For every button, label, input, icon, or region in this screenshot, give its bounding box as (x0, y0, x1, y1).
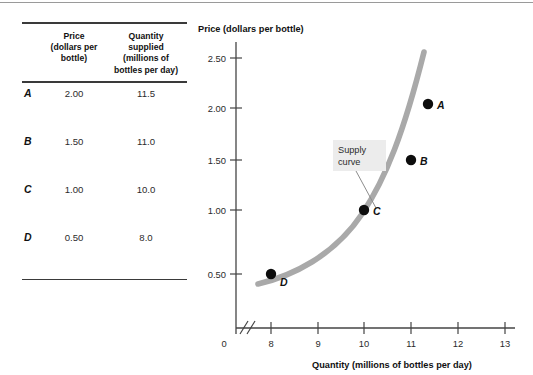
y-tick-label-050: 0.50 (208, 269, 226, 280)
data-point-b (406, 155, 416, 165)
data-point-c (359, 205, 369, 215)
quantity-header-line1: Quantity (105, 31, 187, 42)
y-tick-label-100: 1.00 (208, 205, 226, 216)
row-quantity-b: 11.0 (105, 136, 187, 147)
row-quantity-d: 8.0 (105, 232, 187, 243)
table-header-row: Price (dollars per bottle) Quantity supp… (22, 24, 187, 82)
page-top-rule (0, 2, 533, 3)
quantity-header-line3: (millions of (105, 53, 187, 64)
x-axis-title: Quantity (millions of bottles per day) (312, 360, 472, 370)
data-point-label-b: B (420, 155, 428, 167)
row-label-b: B (22, 135, 43, 147)
x-tick-label-12: 12 (453, 338, 463, 349)
row-label-d: D (22, 231, 43, 243)
price-header-line3: bottle) (43, 53, 105, 64)
data-point-label-a: A (436, 99, 445, 111)
data-point-d (266, 269, 276, 279)
price-header-line1: Price (43, 31, 105, 42)
row-price-c: 1.00 (43, 184, 105, 195)
y-axis-title: Price (dollars per bottle) (198, 24, 304, 34)
supply-schedule-table: Price (dollars per bottle) Quantity supp… (22, 22, 187, 280)
supply-curve-callout-line1: Supply (338, 145, 366, 155)
table-bottom-rule (22, 279, 187, 281)
row-price-b: 1.50 (43, 136, 105, 147)
table-row: C 1.00 10.0 (22, 183, 187, 231)
table-header-rowlabel (22, 31, 43, 77)
table-row: B 1.50 11.0 (22, 135, 187, 183)
x-tick-label-9: 9 (315, 338, 320, 349)
table-header-price: Price (dollars per bottle) (43, 31, 105, 77)
quantity-header-line4: bottles per day) (105, 65, 187, 76)
table-header-quantity: Quantity supplied (millions of bottles p… (105, 31, 187, 77)
table-row: D 0.50 8.0 (22, 231, 187, 279)
data-point-a (423, 99, 433, 109)
row-quantity-a: 11.5 (105, 88, 187, 99)
y-tick-label-150: 1.50 (208, 155, 226, 166)
row-price-d: 0.50 (43, 232, 105, 243)
supply-curve-callout-line2: curve (338, 157, 360, 167)
y-tick-label-250: 2.50 (208, 53, 226, 64)
x-tick-label-8: 8 (268, 338, 273, 349)
row-quantity-c: 10.0 (105, 184, 187, 195)
x-tick-label-13: 13 (500, 338, 510, 349)
supply-curve-leader-line (356, 171, 376, 208)
table-header-rule (22, 81, 187, 83)
table-row: A 2.00 11.5 (22, 87, 187, 135)
supply-curve-chart: Price (dollars per bottle) 2.50 2.00 1.5… (196, 12, 533, 375)
y-tick-label-200: 2.00 (208, 103, 226, 114)
row-price-a: 2.00 (43, 88, 105, 99)
x-tick-label-11: 11 (406, 338, 416, 349)
row-label-a: A (22, 87, 43, 99)
price-header-line2: (dollars per (43, 42, 105, 53)
row-label-c: C (22, 183, 43, 195)
data-point-label-c: C (373, 205, 381, 217)
data-point-label-d: D (280, 276, 288, 288)
x-origin-label: 0 (221, 338, 226, 349)
x-tick-label-10: 10 (359, 338, 369, 349)
quantity-header-line2: supplied (105, 42, 187, 53)
